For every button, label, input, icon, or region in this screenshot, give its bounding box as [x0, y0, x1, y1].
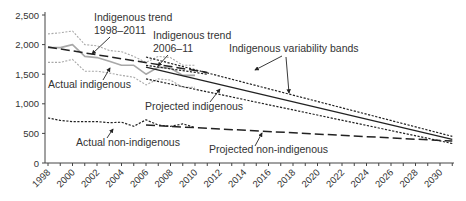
x-tick-label: 2008 [152, 167, 175, 190]
annotation-trend-2006-11: Indigenous trend [153, 29, 231, 41]
x-tick-label: 2030 [422, 167, 445, 190]
arrow-variability-lower [286, 57, 289, 93]
y-tick-label: 0 [34, 158, 39, 169]
x-tick-label: 2024 [348, 167, 371, 190]
x-tick-label: 2020 [299, 167, 322, 190]
x-tick-label: 2018 [275, 167, 298, 190]
x-tick-label: 2022 [324, 167, 347, 190]
y-tick-label: 2,500 [15, 10, 39, 21]
annotation-actual-non-indigenous: Actual non-indigenous [76, 136, 180, 148]
annotation-variability-bands: Indigenous variability bands [229, 42, 359, 54]
x-tick-label: 2016 [250, 167, 273, 190]
annotations: Indigenous trend 1998–2011 Indigenous tr… [48, 11, 359, 155]
x-tick-label: 2006 [128, 167, 151, 190]
x-tick-label: 2004 [103, 167, 126, 190]
x-tick-label: 1998 [30, 167, 53, 190]
y-tick-label: 2,000 [15, 39, 39, 50]
x-tick-label: 2000 [54, 167, 77, 190]
x-tick-label: 2002 [79, 167, 102, 190]
annotation-actual-indigenous: Actual indigenous [48, 78, 131, 90]
series-projected-non-indigenous [146, 125, 452, 141]
y-tick-label: 1,000 [15, 98, 39, 109]
annotation-projected-non-indigenous: Projected non-indigenous [209, 143, 328, 155]
arrow-variability-upper [255, 56, 282, 70]
y-tick-label: 1,500 [15, 69, 39, 80]
x-tick-label: 2026 [373, 167, 396, 190]
annotation-trend-2006-11-years: 2006–11 [153, 42, 193, 54]
annotation-trend-1998-2011: Indigenous trend [94, 11, 172, 23]
annotation-trend-1998-2011-years: 1998–2011 [94, 24, 146, 36]
x-tick-label: 2010 [177, 167, 200, 190]
arrow-trend-2006-11 [158, 55, 168, 66]
annotation-projected-indigenous: Projected indigenous [145, 100, 243, 112]
x-tick-label: 2012 [201, 167, 224, 190]
x-tick-label: 2028 [397, 167, 420, 190]
series-indigenous-variability-bands-upper- [146, 57, 452, 136]
y-tick-label: 500 [23, 128, 39, 139]
line-chart: 05001,0001,5002,0002,5001998200020022004… [0, 0, 466, 201]
x-tick-label: 2014 [226, 167, 249, 190]
